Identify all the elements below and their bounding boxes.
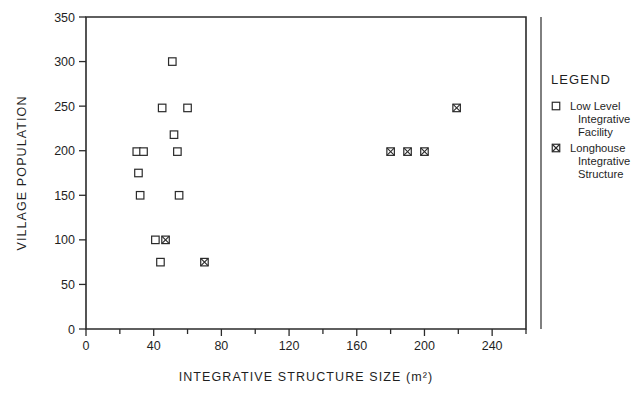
data-point-open-square <box>169 58 177 65</box>
data-point-open-square <box>135 169 143 177</box>
data-point-open-square <box>136 192 144 200</box>
legend-entries: Low LevelIntegrativeFacilityLonghouseInt… <box>552 100 630 180</box>
chart-canvas: 04080120160200240 050100150200250300350 … <box>0 0 632 404</box>
series-longhouse-integrative-structure <box>162 104 461 266</box>
y-axis-title: VILLAGE POPULATION <box>15 95 29 250</box>
legend-title: LEGEND <box>551 72 611 87</box>
legend-entry-line: Structure <box>578 168 623 180</box>
y-tick-label: 250 <box>54 100 75 114</box>
y-axis-ticks <box>79 17 86 329</box>
data-point-crossed-square <box>387 148 395 156</box>
x-tick-label: 160 <box>346 339 367 353</box>
y-tick-label: 100 <box>54 233 75 247</box>
data-point-open-square <box>175 192 183 200</box>
data-point-crossed-square <box>421 148 429 156</box>
data-point-crossed-square <box>404 148 412 156</box>
legend-entry-line: Facility <box>578 126 613 138</box>
y-tick-label: 350 <box>54 11 75 25</box>
data-point-open-square <box>174 148 182 156</box>
x-tick-label: 200 <box>414 339 435 353</box>
x-tick-label: 0 <box>83 339 90 353</box>
legend-entry-line: Integrative <box>578 155 630 167</box>
legend-panel: LEGEND Low LevelIntegrativeFacilityLongh… <box>541 17 630 329</box>
y-tick-label: 200 <box>54 144 75 158</box>
x-tick-label: 80 <box>214 339 228 353</box>
data-point-open-square <box>170 131 178 139</box>
x-axis-title: INTEGRATIVE STRUCTURE SIZE (m²) <box>179 370 434 384</box>
y-tick-label: 300 <box>54 55 75 69</box>
y-tick-label: 150 <box>54 189 75 203</box>
data-point-open-square <box>184 104 192 112</box>
x-axis-tick-labels: 04080120160200240 <box>83 339 503 353</box>
x-tick-label: 40 <box>147 339 161 353</box>
legend-entry-line: Low Level <box>570 100 620 112</box>
data-point-open-square <box>140 148 148 156</box>
x-axis-ticks <box>86 329 526 336</box>
legend-marker-open-square <box>552 102 560 110</box>
y-tick-label: 0 <box>68 323 75 337</box>
x-tick-label: 240 <box>482 339 503 353</box>
y-axis-tick-labels: 050100150200250300350 <box>54 11 75 337</box>
x-tick-label: 120 <box>279 339 300 353</box>
plot-frame <box>86 17 526 329</box>
legend-entry-line: Longhouse <box>570 142 625 154</box>
scatter-plot-figure: 04080120160200240 050100150200250300350 … <box>0 0 632 404</box>
series-low-level-integrative-facility <box>133 58 191 266</box>
legend-entry-line: Integrative <box>578 113 630 125</box>
data-point-crossed-square <box>453 104 461 112</box>
data-point-open-square <box>152 236 160 244</box>
legend-entry: Low LevelIntegrativeFacility <box>552 100 630 138</box>
axis-frame-path <box>86 17 526 329</box>
data-point-open-square <box>157 258 165 266</box>
legend-marker-crossed-square <box>552 144 560 152</box>
data-point-crossed-square <box>201 258 209 266</box>
data-point-open-square <box>158 104 166 112</box>
y-tick-label: 50 <box>61 278 75 292</box>
data-point-crossed-square <box>162 236 170 244</box>
legend-entry: LonghouseIntegrativeStructure <box>552 142 630 180</box>
